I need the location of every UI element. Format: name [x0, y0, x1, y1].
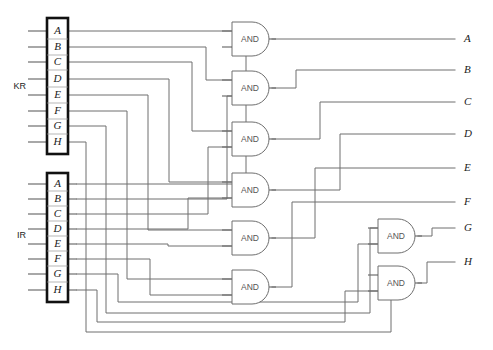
and-gate-4-label: AND	[241, 185, 259, 195]
wire-ir-e	[77, 244, 232, 246]
output-label-b: B	[464, 63, 471, 75]
register-ir-label: IR	[17, 230, 27, 240]
and-gate-2[interactable]: AND	[222, 71, 276, 105]
wire-kr-g	[68, 126, 378, 313]
and-gate-7[interactable]: AND	[368, 219, 422, 253]
register-kr-label: KR	[13, 81, 26, 91]
register-ir-bit-f: F	[53, 252, 61, 264]
and-gate-3[interactable]: AND	[222, 122, 276, 156]
register-ir-bit-a: A	[53, 177, 61, 189]
register-ir-bit-h: H	[53, 283, 63, 295]
wire-ir-a	[77, 47, 246, 184]
register-kr-bit-f: F	[53, 104, 61, 116]
wire-kr-c	[68, 62, 232, 131]
and-gate-5[interactable]: AND	[222, 221, 276, 255]
output-label-g: G	[464, 221, 472, 233]
and-gate-8-label: AND	[387, 278, 405, 288]
output-label-f: F	[463, 195, 471, 207]
register-ir-bit-e: E	[53, 237, 61, 249]
wire-out-g	[418, 228, 455, 236]
circuit-canvas: A B C D E F G H KR	[0, 0, 493, 350]
wire-kr-b	[68, 47, 232, 80]
and-gate-2-label: AND	[241, 83, 259, 93]
wire-out-b	[272, 70, 455, 88]
and-gate-6-label: AND	[241, 282, 259, 292]
register-ir-bit-d: D	[53, 222, 62, 234]
register-kr-bit-b: B	[54, 40, 61, 52]
wire-out-e	[272, 168, 455, 238]
wire-out-h	[418, 262, 455, 283]
circuit-diagram: A B C D E F G H KR	[0, 0, 493, 350]
register-kr[interactable]: A B C D E F G H KR	[13, 18, 68, 154]
and-gate-7-label: AND	[387, 231, 405, 241]
wire-kr-e	[68, 95, 232, 230]
output-label-e: E	[463, 161, 471, 173]
register-kr-bit-c: C	[54, 55, 62, 67]
register-kr-bit-g: G	[54, 119, 62, 131]
register-ir[interactable]: A B C D E F G H IR	[17, 173, 77, 302]
wire-out-d	[272, 134, 455, 190]
wire-ir-g	[77, 244, 378, 302]
and-gate-6[interactable]: AND	[222, 270, 276, 304]
register-kr-bit-h: H	[53, 135, 63, 147]
wire-ir-c	[77, 147, 232, 214]
register-ir-bit-b: B	[54, 192, 61, 204]
and-gate-1[interactable]: AND	[222, 22, 276, 56]
output-label-a: A	[463, 32, 471, 44]
and-gate-4[interactable]: AND	[222, 173, 276, 207]
output-label-c: C	[464, 95, 472, 107]
and-gate-8[interactable]: AND	[368, 266, 422, 300]
wire-ir-f	[77, 259, 232, 295]
register-ir-input-pins	[28, 184, 47, 290]
output-label-d: D	[463, 127, 472, 139]
register-kr-bit-a: A	[53, 24, 61, 36]
wire-out-c	[272, 102, 455, 139]
output-labels: A B C D E F G H	[463, 32, 473, 267]
wire-kr-h	[68, 142, 391, 332]
and-gate-5-label: AND	[241, 233, 259, 243]
output-label-h: H	[463, 255, 473, 267]
and-gate-3-label: AND	[241, 134, 259, 144]
register-ir-bit-c: C	[54, 207, 62, 219]
register-kr-bit-d: D	[53, 72, 62, 84]
wire-kr-f	[68, 111, 232, 279]
register-kr-input-pins	[28, 31, 47, 142]
register-ir-bit-g: G	[54, 267, 62, 279]
register-kr-bit-e: E	[53, 88, 61, 100]
and-gate-1-label: AND	[241, 34, 259, 44]
register-ir-output-pins	[68, 184, 77, 290]
